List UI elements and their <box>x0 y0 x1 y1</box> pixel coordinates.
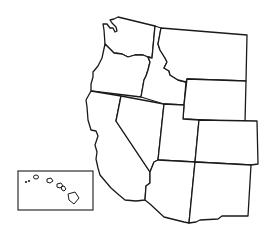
state-montana[interactable] <box>158 28 247 82</box>
hawaii-inset <box>18 171 93 210</box>
western-us-map <box>0 0 270 237</box>
island-kauai <box>34 175 39 179</box>
island-niihau <box>25 181 27 183</box>
state-arizona[interactable] <box>145 160 195 223</box>
inset-frame <box>18 171 93 210</box>
state-colorado[interactable] <box>195 120 258 165</box>
state-new-mexico[interactable] <box>189 162 251 223</box>
state-wyoming[interactable] <box>183 79 246 122</box>
island-kauai-small <box>28 180 30 182</box>
